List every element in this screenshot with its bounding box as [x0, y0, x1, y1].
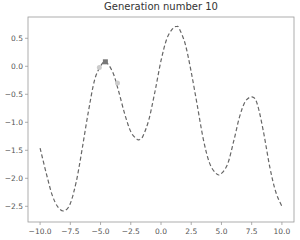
y-tick-label: 0.0 — [11, 62, 23, 71]
best-marker — [103, 59, 108, 64]
chart: Generation number 10 −10.0−7.5−5.0−2.50.… — [0, 0, 300, 240]
y-tick-label: −1.0 — [5, 118, 23, 127]
plot-area: −10.0−7.5−5.0−2.50.02.55.07.510.00.50.0−… — [0, 0, 300, 240]
x-tick-label: 7.5 — [246, 227, 258, 236]
x-tick-label: −5.0 — [91, 227, 109, 236]
y-tick-label: −1.5 — [5, 146, 23, 155]
x-tick-label: 0.0 — [155, 227, 167, 236]
y-tick-label: −2.0 — [5, 174, 23, 183]
x-tick-label: −7.5 — [61, 227, 79, 236]
x-tick-label: 2.5 — [185, 227, 197, 236]
chart-title: Generation number 10 — [28, 1, 294, 12]
x-tick-label: 5.0 — [215, 227, 227, 236]
x-tick-label: 10.0 — [274, 227, 291, 236]
y-tick-label: −2.5 — [5, 202, 23, 211]
population-marker — [97, 65, 102, 70]
x-tick-label: −2.5 — [122, 227, 140, 236]
y-tick-label: 0.5 — [11, 34, 23, 43]
population-marker — [115, 81, 120, 86]
axes-frame — [28, 17, 294, 222]
function-curve — [40, 26, 282, 211]
y-tick-label: −0.5 — [5, 90, 23, 99]
x-tick-label: −10.0 — [29, 227, 52, 236]
